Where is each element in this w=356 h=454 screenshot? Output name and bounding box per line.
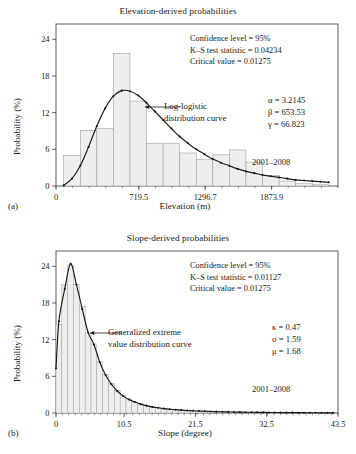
- svg-text:0: 0: [54, 420, 58, 429]
- y-axis-title-slope: Probability (%): [12, 325, 22, 382]
- param-kappa: κ = 0.47: [272, 321, 301, 333]
- svg-text:0: 0: [54, 193, 58, 202]
- curve-annotation-line2: value distribution curve: [108, 339, 192, 351]
- params-block-slope: κ = 0.47 σ = 1.59 μ = 1.68: [272, 321, 301, 357]
- x-axis-title-slope: Slope (degree): [60, 428, 310, 438]
- confidence-level-text: Confidence level = 95%: [190, 33, 282, 45]
- years-label-slope: 2001–2008: [252, 384, 290, 394]
- svg-text:0: 0: [45, 409, 49, 418]
- panel-elevation: Elevation-derived probabilities 0719.512…: [0, 0, 356, 227]
- panel-label-a: (a): [8, 201, 18, 211]
- y-axis-title-elevation: Probability (%): [12, 98, 22, 155]
- confidence-level-text: Confidence level = 95%: [190, 260, 281, 272]
- param-alpha: α = 3.2145: [268, 94, 305, 106]
- svg-text:6: 6: [45, 372, 49, 381]
- figure-two-panel-probability-distributions: Elevation-derived probabilities 0719.512…: [0, 0, 356, 454]
- param-sigma: σ = 1.59: [272, 333, 301, 345]
- stats-block-slope: Confidence level = 95% K–S test statisti…: [190, 260, 281, 295]
- ks-statistic-text: K–S test statistic = 0.01127: [190, 272, 281, 284]
- critical-value-text: Critical value = 0.01275: [190, 56, 282, 68]
- svg-text:12: 12: [41, 109, 49, 118]
- svg-text:6: 6: [45, 145, 49, 154]
- stats-block-elevation: Confidence level = 95% K–S test statisti…: [190, 33, 282, 68]
- curve-annotation-line2: distribution curve: [164, 113, 226, 125]
- curve-annotation-elevation: Log-logistic distribution curve: [164, 101, 226, 124]
- param-mu: μ = 1.68: [272, 345, 301, 357]
- params-block-elevation: α = 3.2145 β = 653.53 γ = 66.823: [268, 94, 305, 130]
- svg-text:12: 12: [41, 336, 49, 345]
- ks-statistic-text: K–S test statistic = 0.04234: [190, 45, 282, 57]
- curve-annotation-line1: Log-logistic: [164, 101, 226, 113]
- svg-text:0: 0: [45, 182, 49, 191]
- curve-annotation-slope: Generalized extreme value distribution c…: [108, 327, 192, 350]
- param-gamma: γ = 66.823: [268, 118, 305, 130]
- panel-label-b: (b): [8, 428, 19, 438]
- param-beta: β = 653.53: [268, 106, 305, 118]
- svg-text:24: 24: [41, 262, 50, 271]
- svg-text:18: 18: [41, 72, 49, 81]
- x-axis-title-elevation: Elevation (m): [60, 201, 310, 211]
- svg-text:18: 18: [41, 299, 49, 308]
- svg-text:24: 24: [41, 35, 50, 44]
- years-label-elevation: 2001–2008: [252, 157, 290, 167]
- critical-value-text: Critical value = 0.01275: [190, 283, 281, 295]
- curve-annotation-line1: Generalized extreme: [108, 327, 192, 339]
- svg-text:43.5: 43.5: [331, 420, 346, 429]
- panel-slope: Slope-derived probabilities 010.521.532.…: [0, 227, 356, 454]
